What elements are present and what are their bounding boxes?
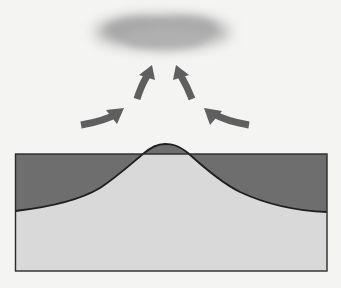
arrow-right-rising-icon [173, 65, 192, 99]
arrow-left-inflow-icon [81, 108, 124, 125]
cross-section-frame [16, 144, 328, 271]
orographic-cloud-diagram [0, 0, 341, 288]
arrow-right-inflow-icon [204, 108, 249, 125]
cloud-icon [94, 15, 230, 49]
arrow-left-rising-icon [137, 65, 155, 99]
